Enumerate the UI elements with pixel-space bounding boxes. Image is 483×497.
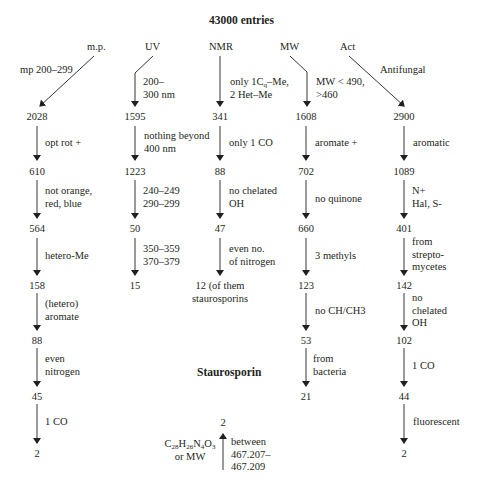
count-mw-2: 702 <box>286 166 326 179</box>
filter-nmr-3: even no. of nitrogen <box>229 243 275 268</box>
count-act-3: 401 <box>384 223 424 236</box>
filter-mp-4: (hetero) aromate <box>45 298 79 323</box>
filter-act-2: N+ Hal, S- <box>412 185 442 210</box>
header-mw: MW <box>280 41 299 54</box>
count-uv-4: 15 <box>115 280 155 293</box>
filter-nmr-methyl: only 1Cq–Me, 2 Het–Me <box>230 76 289 101</box>
header-uv: UV <box>145 41 160 54</box>
filter-mw-5: from bacteria <box>313 353 346 378</box>
count-mp-2: 610 <box>17 166 57 179</box>
filter-mp-3: hetero-Me <box>45 250 89 263</box>
count-mw-1: 1608 <box>286 111 326 124</box>
filter-mw-1: aromate + <box>315 137 357 150</box>
filter-nmr-1: only 1 CO <box>229 137 273 150</box>
count-nmr-4: 12 (of them staurosporins <box>170 280 270 305</box>
count-uv-1: 1595 <box>115 111 155 124</box>
count-nmr-3: 47 <box>200 223 240 236</box>
count-mw-4: 123 <box>286 280 326 293</box>
filter-mw-3: 3 methyls <box>315 250 356 263</box>
count-uv-2: 1223 <box>115 166 155 179</box>
diagram-title: 43000 entries <box>0 14 483 27</box>
filter-act-antifungal: Antifungal <box>380 64 426 77</box>
molecular-formula: C28H26N4O3 or MW <box>160 438 220 463</box>
count-mp-6: 45 <box>17 391 57 404</box>
count-mp-4: 158 <box>17 280 57 293</box>
count-nmr-1: 341 <box>200 111 240 124</box>
arrow-mw <box>290 56 307 106</box>
filter-mw-range: MW < 490, >460 <box>316 76 365 101</box>
filter-act-1: aromatic <box>413 137 450 150</box>
count-mp-3: 564 <box>17 223 57 236</box>
count-mw-5: 53 <box>286 335 326 348</box>
count-nmr-2: 88 <box>200 166 240 179</box>
filter-uv-range: 200– 300 nm <box>143 76 175 101</box>
count-mw-6: 21 <box>286 391 326 404</box>
filter-act-6: fluorescent <box>413 416 460 429</box>
count-mp-7: 2 <box>17 448 57 461</box>
formula-result-count: 2 <box>213 417 233 430</box>
filter-mp-range: mp 200–299 <box>20 64 73 77</box>
count-act-5: 102 <box>384 335 424 348</box>
count-act-2: 1089 <box>384 166 424 179</box>
filter-act-4: no chelated OH <box>412 292 447 330</box>
filter-mp-2: not orange, red, blue <box>45 185 92 210</box>
filter-mp-1: opt rot + <box>45 137 81 150</box>
header-act: Act <box>340 41 355 54</box>
filter-mw-2: no quinone <box>315 193 362 206</box>
count-act-1: 2900 <box>384 111 424 124</box>
conclusion-label: Staurosporin <box>197 366 261 379</box>
filter-uv-3: 350–359 370–379 <box>143 243 180 268</box>
filter-mw-4: no CH/CH3 <box>315 305 365 318</box>
count-act-7: 2 <box>384 448 424 461</box>
count-mp-5: 88 <box>17 335 57 348</box>
count-act-4: 142 <box>384 280 424 293</box>
header-mp: m.p. <box>87 41 106 54</box>
filter-nmr-2: no chelated OH <box>229 185 277 210</box>
count-uv-3: 50 <box>115 223 155 236</box>
filter-uv-1: nothing beyond 400 nm <box>144 130 210 155</box>
count-mw-3: 660 <box>286 223 326 236</box>
mw-range-filter: between 467.207– 467.209 <box>231 436 270 474</box>
count-mp-1: 2028 <box>17 111 57 124</box>
filter-mp-5: even nitrogen <box>45 353 80 378</box>
header-nmr: NMR <box>209 41 233 54</box>
filter-act-5: 1 CO <box>412 360 434 373</box>
count-act-6: 44 <box>384 391 424 404</box>
filter-mp-6: 1 CO <box>45 416 67 429</box>
filter-uv-2: 240–249 290–299 <box>143 185 180 210</box>
filter-act-3: from strepto- mycetes <box>412 236 446 274</box>
